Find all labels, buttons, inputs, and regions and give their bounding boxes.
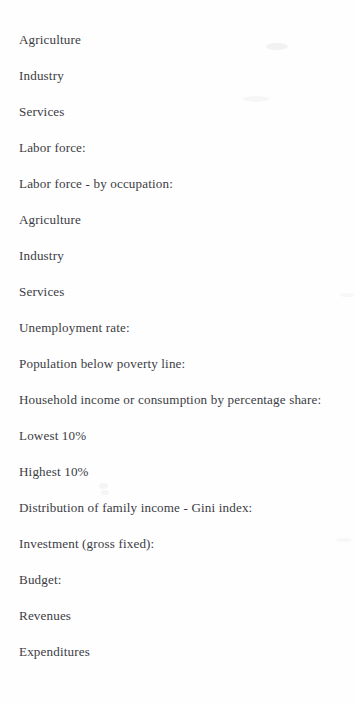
document-line: Revenues [19, 598, 348, 634]
document-line: Investment (gross fixed): [19, 526, 348, 562]
document-line: Industry [19, 238, 348, 274]
document-line: Distribution of family income - Gini ind… [19, 490, 348, 526]
document-line: Household income or consumption by perce… [19, 382, 348, 418]
document-line: Industry [19, 58, 348, 94]
document-page: Agriculture Industry Services Labor forc… [0, 0, 356, 703]
document-line: Labor force: [19, 130, 348, 166]
document-line: Services [19, 274, 348, 310]
document-line: Unemployment rate: [19, 310, 348, 346]
document-line: Highest 10% [19, 454, 348, 490]
document-line: Population below poverty line: [19, 346, 348, 382]
document-line: Budget: [19, 562, 348, 598]
document-line: Agriculture [19, 22, 348, 58]
document-line: Agriculture [19, 202, 348, 238]
document-text-block: Agriculture Industry Services Labor forc… [19, 22, 348, 670]
document-line: Labor force - by occupation: [19, 166, 348, 202]
document-line: Services [19, 94, 348, 130]
document-line: Lowest 10% [19, 418, 348, 454]
document-line: Expenditures [19, 634, 348, 670]
